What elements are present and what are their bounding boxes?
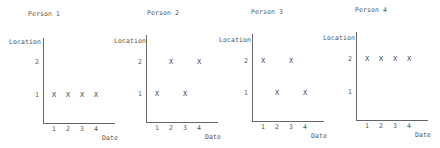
y-tick-label: 2 bbox=[138, 58, 142, 66]
y-axis-label: Location bbox=[323, 34, 355, 42]
y-tick-label: 2 bbox=[348, 55, 352, 63]
data-point-x-marker: X bbox=[303, 89, 307, 97]
data-point-x-marker: X bbox=[80, 91, 84, 99]
y-axis bbox=[356, 32, 357, 121]
y-axis-label: Location bbox=[9, 38, 41, 46]
x-axis bbox=[252, 121, 324, 122]
y-tick-label: 2 bbox=[244, 57, 248, 65]
y-tick-label: 1 bbox=[244, 89, 248, 97]
y-tick-label: 1 bbox=[348, 88, 352, 96]
y-axis bbox=[43, 38, 44, 124]
y-axis bbox=[146, 35, 147, 123]
x-tick-label: 1 bbox=[365, 122, 369, 130]
x-tick-label: 3 bbox=[393, 122, 397, 130]
x-tick-label: 1 bbox=[261, 123, 265, 131]
x-tick-label: 4 bbox=[303, 123, 307, 131]
y-tick-label: 2 bbox=[35, 58, 39, 66]
panel-title: Person 4 bbox=[355, 6, 387, 14]
x-tick-label: 1 bbox=[155, 124, 159, 132]
y-axis bbox=[252, 34, 253, 122]
x-tick-label: 2 bbox=[66, 125, 70, 133]
data-point-x-marker: X bbox=[169, 58, 173, 66]
data-point-x-marker: X bbox=[289, 57, 293, 65]
data-point-x-marker: X bbox=[52, 91, 56, 99]
data-point-x-marker: X bbox=[379, 55, 383, 63]
y-tick-label: 1 bbox=[35, 91, 39, 99]
x-axis bbox=[356, 120, 428, 121]
panel-title: Person 3 bbox=[251, 8, 283, 16]
x-tick-label: 2 bbox=[275, 123, 279, 131]
x-axis-label: Date bbox=[311, 132, 327, 140]
data-point-x-marker: X bbox=[183, 90, 187, 98]
x-axis bbox=[146, 122, 218, 123]
data-point-x-marker: X bbox=[407, 55, 411, 63]
data-point-x-marker: X bbox=[66, 91, 70, 99]
y-tick-label: 1 bbox=[138, 90, 142, 98]
x-tick-label: 3 bbox=[80, 125, 84, 133]
x-tick-label: 4 bbox=[197, 124, 201, 132]
data-point-x-marker: X bbox=[94, 91, 98, 99]
x-axis bbox=[43, 123, 115, 124]
x-axis-label: Date bbox=[205, 133, 221, 141]
x-tick-label: 2 bbox=[379, 122, 383, 130]
x-tick-label: 4 bbox=[407, 122, 411, 130]
x-tick-label: 4 bbox=[94, 125, 98, 133]
data-point-x-marker: X bbox=[365, 55, 369, 63]
data-point-x-marker: X bbox=[197, 58, 201, 66]
x-tick-label: 1 bbox=[52, 125, 56, 133]
y-axis-label: Location bbox=[219, 36, 251, 44]
x-axis-label: Date bbox=[102, 134, 118, 142]
data-point-x-marker: X bbox=[261, 57, 265, 65]
x-axis-label: Date bbox=[415, 131, 431, 139]
x-tick-label: 3 bbox=[289, 123, 293, 131]
panel-title: Person 2 bbox=[147, 9, 179, 17]
y-axis-label: Location bbox=[114, 37, 146, 45]
data-point-x-marker: X bbox=[275, 89, 279, 97]
data-point-x-marker: X bbox=[393, 55, 397, 63]
panel-title: Person 1 bbox=[28, 10, 60, 18]
data-point-x-marker: X bbox=[155, 90, 159, 98]
x-tick-label: 3 bbox=[183, 124, 187, 132]
x-tick-label: 2 bbox=[169, 124, 173, 132]
